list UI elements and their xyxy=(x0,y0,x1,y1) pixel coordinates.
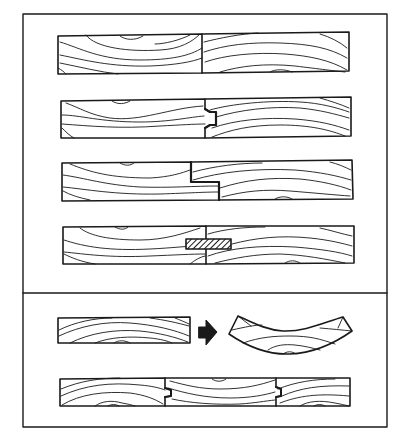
tongue-and-groove-joint xyxy=(61,97,351,138)
butt-joint xyxy=(58,32,349,74)
outer-frame xyxy=(23,14,387,427)
spline-joint xyxy=(63,226,354,264)
arrow-icon xyxy=(199,320,217,345)
shiplap-joint xyxy=(62,160,353,201)
joinery-diagram xyxy=(0,0,399,437)
flat-board xyxy=(58,317,190,343)
cupped-board xyxy=(229,316,352,354)
three-board-panel xyxy=(60,378,350,406)
spline-insert xyxy=(186,239,231,249)
